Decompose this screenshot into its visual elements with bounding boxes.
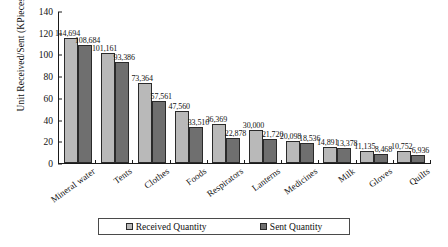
x-axis-label-text: Milk xyxy=(337,166,357,185)
bar-group: 47,56033,510 xyxy=(170,12,207,163)
legend-item-sent[interactable]: Sent Quantity xyxy=(260,222,323,232)
bar-value-label: 93,386 xyxy=(114,53,135,62)
bar-sent[interactable]: 13,378 xyxy=(337,148,351,163)
x-axis-label-text: Lanterns xyxy=(250,166,282,193)
y-axis-tick-label: 20 xyxy=(19,137,58,147)
bar-value-label: 73,364 xyxy=(131,74,152,83)
bar-value-label: 22,878 xyxy=(225,129,246,138)
bar-value-label: 6,936 xyxy=(412,146,430,155)
x-axis-label-text: Foods xyxy=(184,166,208,187)
legend-label-sent: Sent Quantity xyxy=(270,222,323,232)
legend-swatch-sent-icon xyxy=(260,223,267,230)
bar-group: 20,09818,536 xyxy=(282,12,319,163)
bar-value-label: 36,369 xyxy=(206,115,227,124)
bar-group: 10,7526,936 xyxy=(393,12,430,163)
legend-swatch-received-icon xyxy=(126,223,133,230)
bar-groups: 114,694108,684101,16193,38673,36457,5614… xyxy=(59,12,430,163)
x-axis-label-text: Mineral water xyxy=(48,166,96,205)
y-axis-tick-label: 80 xyxy=(19,72,58,82)
bar-value-label: 47,560 xyxy=(169,102,190,111)
y-axis-tick-label: 140 xyxy=(19,7,58,17)
y-axis-tick-label: 0 xyxy=(19,159,58,169)
bar-sent[interactable]: 57,561 xyxy=(152,101,166,163)
bar-sent[interactable]: 8,468 xyxy=(374,154,388,163)
x-axis-tick-mark xyxy=(430,160,431,164)
x-axis-label-text: Clothes xyxy=(142,166,171,191)
bar-group: 30,00021,720 xyxy=(244,12,281,163)
x-axis-label-text: Medicines xyxy=(283,166,320,197)
legend-label-received: Received Quantity xyxy=(136,222,207,232)
chart-legend: Received Quantity Sent Quantity xyxy=(98,218,350,235)
bar-value-label: 57,561 xyxy=(151,92,172,101)
bar-value-label: 30,000 xyxy=(243,121,264,130)
bar-sent[interactable]: 33,510 xyxy=(189,127,203,163)
x-axis-label-text: Quilts xyxy=(407,166,431,187)
bar-sent[interactable]: 21,720 xyxy=(263,139,277,163)
bar-group: 36,36922,878 xyxy=(207,12,244,163)
bar-group: 101,16193,386 xyxy=(96,12,133,163)
x-axis-label-text: Respirators xyxy=(205,166,245,199)
y-axis-tick-label: 120 xyxy=(19,29,58,39)
bar-value-label: 11,135 xyxy=(354,142,375,151)
y-axis-title: Unit Received/Sent (KPieces) xyxy=(16,0,26,128)
y-axis-tick-label: 40 xyxy=(19,116,58,126)
bar-sent[interactable]: 18,536 xyxy=(300,143,314,163)
bar-sent[interactable]: 6,936 xyxy=(411,155,425,163)
bar-sent[interactable]: 22,878 xyxy=(226,138,240,163)
x-axis-labels: Mineral waterTentsClothesFoodsRespirator… xyxy=(59,166,431,212)
plot-area: 140120100806040200 114,694108,684101,161… xyxy=(58,12,430,164)
x-axis-label-text: Gloves xyxy=(367,166,394,189)
y-axis-tick-label: 60 xyxy=(19,94,58,104)
bar-group: 114,694108,684 xyxy=(59,12,96,163)
bar-received[interactable]: 11,135 xyxy=(360,151,374,163)
bar-received[interactable]: 10,752 xyxy=(397,151,411,163)
bar-sent[interactable]: 93,386 xyxy=(115,62,129,163)
bar-group: 14,89113,378 xyxy=(319,12,356,163)
bar-received[interactable]: 14,891 xyxy=(323,147,337,163)
bar-sent[interactable]: 108,684 xyxy=(78,45,92,163)
legend-item-received[interactable]: Received Quantity xyxy=(126,222,207,232)
y-axis-tick-label: 100 xyxy=(19,50,58,60)
x-axis-label-text: Tents xyxy=(112,166,134,186)
bar-group: 73,36457,561 xyxy=(133,12,170,163)
bar-value-label: 8,468 xyxy=(375,145,393,154)
bar-received[interactable]: 101,161 xyxy=(101,53,115,163)
bar-received[interactable]: 20,098 xyxy=(286,141,300,163)
bar-value-label: 10,752 xyxy=(391,142,412,151)
bar-group: 11,1358,468 xyxy=(356,12,393,163)
bar-chart: Unit Received/Sent (KPieces) 14012010080… xyxy=(0,0,448,247)
bar-received[interactable]: 114,694 xyxy=(64,38,78,163)
